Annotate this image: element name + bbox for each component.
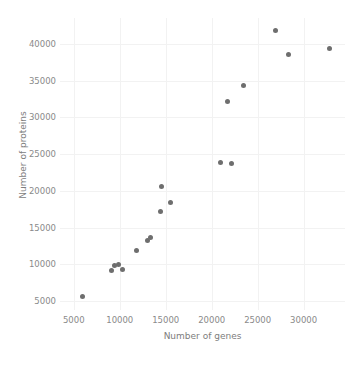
data-point (168, 200, 173, 205)
data-point (134, 248, 139, 253)
gridline-horizontal (60, 81, 345, 82)
data-point (158, 209, 163, 214)
y-tick-label: 25000 (29, 149, 56, 159)
data-point (327, 46, 332, 51)
scatter-chart-figure: 500010000150002000025000300003500040000 … (0, 0, 355, 368)
x-tick-label: 20000 (198, 315, 225, 325)
data-point (109, 268, 114, 273)
gridline-horizontal (60, 44, 345, 45)
data-point (148, 235, 153, 240)
gridline-horizontal (60, 117, 345, 118)
data-point (218, 160, 223, 165)
data-point (286, 52, 291, 57)
y-tick-label: 40000 (29, 39, 56, 49)
data-point (80, 294, 85, 299)
x-tick-label: 5000 (63, 315, 85, 325)
gridline-horizontal (60, 264, 345, 265)
data-point (229, 161, 234, 166)
chart-title (0, 0, 355, 1)
y-tick-label: 20000 (29, 186, 56, 196)
gridline-vertical (258, 18, 259, 310)
y-axis-label: Number of proteins (18, 80, 28, 230)
gridline-horizontal (60, 301, 345, 302)
x-tick-label: 25000 (244, 315, 271, 325)
y-tick-label: 10000 (29, 259, 56, 269)
gridline-horizontal (60, 191, 345, 192)
y-tick-label: 30000 (29, 112, 56, 122)
data-point (116, 262, 121, 267)
gridline-horizontal (60, 228, 345, 229)
plot-area (60, 18, 345, 310)
data-point (120, 267, 125, 272)
data-point (241, 83, 246, 88)
gridline-vertical (212, 18, 213, 310)
gridline-vertical (74, 18, 75, 310)
y-tick-label: 5000 (34, 296, 56, 306)
y-axis-ticks: 500010000150002000025000300003500040000 (0, 18, 56, 310)
data-point (225, 99, 230, 104)
gridline-horizontal (60, 154, 345, 155)
data-point (273, 28, 278, 33)
y-tick-label: 35000 (29, 76, 56, 86)
data-point (159, 184, 164, 189)
x-axis-ticks: 50001000015000200002500030000 (60, 315, 345, 329)
x-tick-label: 10000 (106, 315, 133, 325)
gridline-vertical (166, 18, 167, 310)
gridline-vertical (304, 18, 305, 310)
y-tick-label: 15000 (29, 223, 56, 233)
x-axis-label: Number of genes (60, 331, 345, 341)
x-tick-label: 30000 (290, 315, 317, 325)
x-tick-label: 15000 (152, 315, 179, 325)
